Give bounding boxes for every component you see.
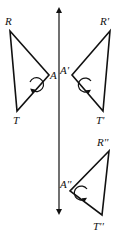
reflection-diagram: R A T R' A' T' R'' A'' T'' (0, 0, 120, 238)
label-r-double-prime: R'' (96, 136, 109, 148)
label-t: T (13, 114, 20, 126)
triangle-reflection: R' A' T' (59, 15, 110, 126)
counterclockwise-arrow-icon (74, 186, 87, 200)
label-a-prime: A' (59, 64, 70, 76)
label-a-double-prime: A'' (59, 178, 72, 190)
label-r: R (4, 15, 12, 27)
triangle-translation: R'' A'' T'' (59, 136, 109, 232)
label-t-double-prime: T'' (93, 220, 104, 232)
triangle-original: R A T (4, 15, 57, 126)
label-t-prime: T' (96, 114, 105, 126)
label-a: A (49, 69, 57, 81)
label-r-prime: R' (99, 15, 110, 27)
